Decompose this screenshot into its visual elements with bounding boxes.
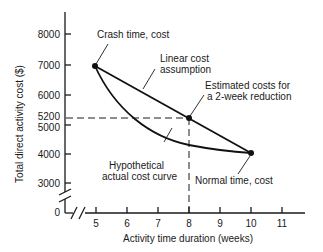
y-tick-5200: 5200 bbox=[38, 111, 61, 122]
estimated-annotation-line2: a 2-week reduction bbox=[207, 91, 292, 102]
linear-leader bbox=[143, 69, 155, 89]
y-axis bbox=[59, 12, 71, 213]
x-tick-5: 5 bbox=[93, 218, 99, 229]
normal-leader bbox=[238, 156, 250, 174]
estimated-point bbox=[186, 115, 192, 121]
estimated-annotation-line1: Estimated costs for bbox=[205, 80, 291, 91]
y-tick-6000: 6000 bbox=[38, 90, 61, 101]
x-axis-title: Activity time duration (weeks) bbox=[123, 233, 253, 244]
y-tick-7000: 7000 bbox=[38, 60, 61, 71]
x-tick-11: 11 bbox=[277, 218, 288, 229]
hypothetical-annotation-line2: actual cost curve bbox=[102, 171, 177, 182]
estimated-leader bbox=[190, 95, 204, 116]
y-tick-labels: 8000 7000 6000 5200 5000 4000 3000 0 bbox=[38, 29, 61, 218]
cost-time-chart: Total direct activity cost ($) 8000 7000… bbox=[0, 0, 323, 252]
origin-zero-label: 0 bbox=[54, 207, 60, 218]
x-tick-10: 10 bbox=[245, 218, 257, 229]
x-tick-6: 6 bbox=[124, 218, 130, 229]
crash-annotation: Crash time, cost bbox=[97, 29, 169, 40]
y-tick-4000: 4000 bbox=[38, 149, 61, 160]
y-axis-title: Total direct activity cost ($) bbox=[14, 65, 25, 183]
normal-point bbox=[248, 150, 254, 156]
y-tick-8000: 8000 bbox=[38, 29, 61, 40]
hypothetical-annotation-line1: Hypothetical bbox=[109, 160, 164, 171]
x-tick-9: 9 bbox=[217, 218, 223, 229]
x-tick-8: 8 bbox=[186, 218, 192, 229]
x-tick-7: 7 bbox=[155, 218, 161, 229]
linear-annotation-line2: assumption bbox=[160, 64, 211, 75]
crash-leader bbox=[96, 44, 108, 64]
x-tick-labels: 5 6 7 8 9 10 11 bbox=[93, 218, 287, 229]
y-tick-3000: 3000 bbox=[38, 178, 61, 189]
linear-annotation-line1: Linear cost bbox=[160, 53, 209, 64]
x-axis bbox=[65, 207, 305, 219]
y-tick-5000: 5000 bbox=[38, 122, 61, 133]
normal-annotation: Normal time, cost bbox=[195, 175, 273, 186]
crash-point bbox=[92, 63, 98, 69]
